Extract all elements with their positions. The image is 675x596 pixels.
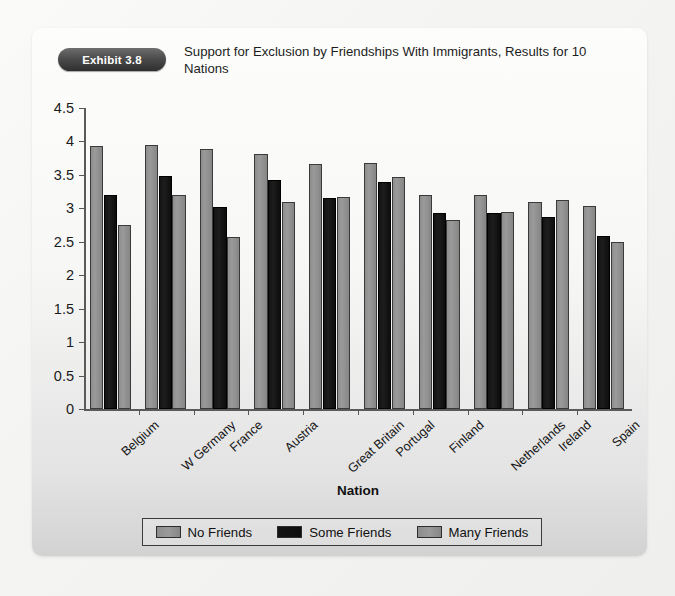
y-axis-tickmark (79, 275, 84, 276)
y-axis-tickmark (79, 242, 84, 243)
y-axis-tick-label: 3.5 (32, 167, 74, 183)
bar-finland-no-friends (419, 195, 432, 409)
bar-belgium-no-friends (90, 146, 103, 409)
bar-spain-many-friends (611, 242, 624, 409)
bar-france-some-friends (213, 207, 226, 409)
legend-item-no-friends[interactable]: No Friends (156, 525, 253, 540)
bar-ireland-no-friends (528, 202, 541, 409)
y-axis-tick-label: 1 (32, 334, 74, 350)
y-axis-tick-label: 4.5 (32, 100, 74, 116)
bar-spain-some-friends (597, 236, 610, 409)
bar-portugal-some-friends (378, 182, 391, 409)
bar-belgium-some-friends (104, 195, 117, 409)
bar-finland-many-friends (446, 220, 459, 409)
y-axis-tickmark (79, 309, 84, 310)
bar-france-many-friends (227, 237, 240, 409)
bar-netherlands-no-friends (474, 195, 487, 409)
y-axis-tick-label: 0.5 (32, 368, 74, 384)
legend-item-some-friends[interactable]: Some Friends (277, 525, 391, 540)
legend-swatch-icon (417, 526, 442, 538)
y-axis-tick-label: 1.5 (32, 301, 74, 317)
x-axis-tickmark (194, 410, 195, 415)
y-axis-tickmark (79, 175, 84, 176)
bar-portugal-many-friends (392, 177, 405, 409)
legend-label: Many Friends (449, 525, 529, 540)
bar-netherlands-many-friends (501, 212, 514, 409)
bar-w-germany-some-friends (159, 176, 172, 409)
x-axis-label-finland: Finland (447, 418, 487, 456)
y-axis-tick-label: 0 (32, 401, 74, 417)
x-axis-tickmark (522, 410, 523, 415)
bar-great-britain-no-friends (309, 164, 322, 409)
bar-finland-some-friends (433, 213, 446, 409)
chart-legend: No FriendsSome FriendsMany Friends (142, 518, 542, 546)
legend-label: Some Friends (309, 525, 391, 540)
y-axis-line (84, 108, 86, 410)
page-background: Exhibit 3.8 Support for Exclusion by Fri… (0, 0, 675, 596)
x-axis-title: Nation (84, 483, 632, 498)
bar-spain-no-friends (583, 206, 596, 409)
bar-austria-some-friends (268, 180, 281, 409)
bar-ireland-some-friends (542, 217, 555, 409)
bar-ireland-many-friends (556, 200, 569, 409)
y-axis-tick-label: 2.5 (32, 234, 74, 250)
x-axis-tickmark (303, 410, 304, 415)
x-axis-tickmark (358, 410, 359, 415)
bar-portugal-no-friends (364, 163, 377, 409)
bar-france-no-friends (200, 149, 213, 409)
legend-label: No Friends (188, 525, 253, 540)
x-axis-label-belgium: Belgium (119, 418, 162, 459)
exhibit-panel: Exhibit 3.8 Support for Exclusion by Fri… (32, 28, 647, 556)
x-axis-tickmark (139, 410, 140, 415)
bar-chart-plot: 00.511.522.533.544.5BelgiumW GermanyFran… (32, 28, 647, 556)
x-axis-label-spain: Spain (609, 418, 642, 450)
y-axis-tickmark (79, 409, 84, 410)
bar-w-germany-no-friends (145, 145, 158, 409)
y-axis-tick-label: 4 (32, 133, 74, 149)
x-axis-tickmark (248, 410, 249, 415)
x-axis-label-austria: Austria (282, 418, 321, 455)
legend-swatch-icon (277, 526, 302, 538)
y-axis-tick-label: 3 (32, 200, 74, 216)
y-axis-tickmark (79, 108, 84, 109)
x-axis-tickmark (577, 410, 578, 415)
y-axis-tickmark (79, 208, 84, 209)
bar-w-germany-many-friends (172, 195, 185, 409)
legend-swatch-icon (156, 526, 181, 538)
bar-netherlands-some-friends (487, 213, 500, 409)
bar-austria-no-friends (254, 154, 267, 409)
x-axis-tickmark (468, 410, 469, 415)
legend-item-many-friends[interactable]: Many Friends (417, 525, 529, 540)
bar-belgium-many-friends (118, 225, 131, 409)
y-axis-tick-label: 2 (32, 267, 74, 283)
bar-great-britain-some-friends (323, 198, 336, 409)
y-axis-tickmark (79, 141, 84, 142)
bar-great-britain-many-friends (337, 197, 350, 409)
bar-austria-many-friends (282, 202, 295, 409)
y-axis-tickmark (79, 376, 84, 377)
y-axis-tickmark (79, 342, 84, 343)
x-axis-tickmark (413, 410, 414, 415)
